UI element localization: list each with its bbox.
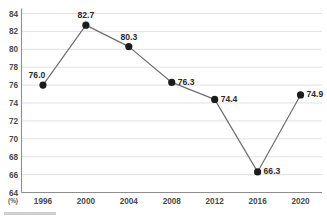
x-axis-tick-labels: 1996200020042008201220162020 — [34, 197, 310, 206]
x-tick-label-2020: 2020 — [291, 197, 310, 206]
data-point-markers — [39, 22, 304, 176]
data-point-2008 — [168, 79, 175, 86]
data-label-1996: 76.0 — [29, 70, 46, 80]
data-series-line — [43, 25, 301, 172]
y-tick-label-76: 76 — [9, 81, 19, 90]
data-point-2016 — [254, 168, 261, 175]
data-point-labels: 76.082.780.376.374.466.374.9 — [29, 10, 324, 176]
y-tick-label-74: 74 — [9, 99, 19, 108]
y-tick-label-78: 78 — [9, 63, 19, 72]
data-label-2008: 76.3 — [178, 77, 195, 87]
y-tick-label-84: 84 — [9, 10, 19, 19]
y-axis-unit-label: (%) — [8, 197, 18, 205]
y-tick-label-68: 68 — [9, 153, 19, 162]
data-point-2012 — [211, 96, 218, 103]
x-tick-label-2012: 2012 — [206, 197, 225, 206]
x-tick-label-2016: 2016 — [248, 197, 267, 206]
data-point-2020 — [297, 91, 304, 98]
footer-rule-artifact — [4, 212, 56, 215]
data-label-2004: 80.3 — [120, 32, 137, 42]
y-axis-tick-labels: 6466687072747678808284 — [9, 10, 19, 198]
y-tick-label-80: 80 — [9, 45, 19, 54]
x-tick-label-2000: 2000 — [77, 197, 96, 206]
data-label-2020: 74.9 — [307, 89, 324, 99]
data-label-2012: 74.4 — [221, 94, 238, 104]
y-tick-label-70: 70 — [9, 135, 19, 144]
line-chart: 6466687072747678808284 19962000200420082… — [0, 0, 327, 222]
data-point-2004 — [125, 43, 132, 50]
y-tick-label-72: 72 — [9, 117, 19, 126]
y-tick-label-82: 82 — [9, 27, 19, 36]
axes-group — [22, 9, 323, 193]
chart-canvas: 6466687072747678808284 19962000200420082… — [0, 0, 327, 222]
y-tick-label-66: 66 — [9, 171, 19, 180]
x-tick-label-2004: 2004 — [120, 197, 139, 206]
data-label-2016: 66.3 — [264, 166, 281, 176]
data-point-1996 — [39, 82, 46, 89]
data-label-2000: 82.7 — [78, 10, 95, 20]
x-tick-label-1996: 1996 — [34, 197, 53, 206]
data-point-2000 — [82, 22, 89, 29]
x-tick-label-2008: 2008 — [163, 197, 182, 206]
